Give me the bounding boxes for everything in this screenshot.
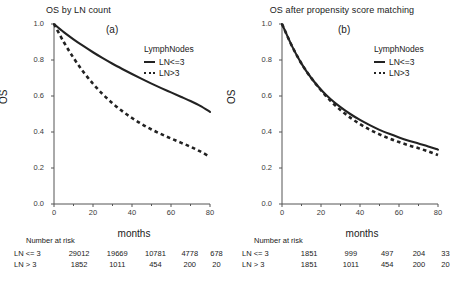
panel-a-legend-item-ln-le-3: LN<=3 (144, 57, 194, 67)
x-tick-label: 0 (272, 208, 292, 217)
y-tick-label: 0.0 (22, 199, 44, 208)
panel-b-legend-label-ln-gt-3: LN>3 (389, 68, 410, 78)
panel-b-risk-title: Number at risk (254, 236, 303, 245)
panel-b-legend: LymphNodes LN<=3 LN>3 (374, 44, 424, 78)
risk-row: LN > 31852101145420020 (0, 259, 228, 270)
dashed-line-swatch-icon (144, 69, 155, 77)
panel-a-risk-title: Number at risk (26, 236, 75, 245)
risk-value: 200 (175, 259, 206, 270)
panel-a-legend: LymphNodes LN<=3 LN>3 (144, 44, 194, 78)
risk-row-label: LN > 3 (228, 259, 288, 270)
x-tick-label: 60 (389, 208, 409, 217)
panel-b-legend-item-ln-le-3: LN<=3 (374, 57, 424, 67)
panel-b-risk-table: LN <= 3185199949720433LN > 3185110114542… (228, 248, 456, 270)
panel-b-legend-label-ln-le-3: LN<=3 (389, 57, 415, 67)
risk-row: LN <= 3185199949720433 (228, 248, 456, 259)
panel-a-legend-label-ln-le-3: LN<=3 (159, 57, 185, 67)
risk-value: 19669 (98, 248, 136, 259)
panel-a-risk-table: LN <= 32901219669107814778678LN > 318521… (0, 248, 228, 270)
risk-value: 4778 (175, 248, 206, 259)
y-tick-label: 0.8 (22, 55, 44, 64)
panel-a-y-axis-label: OS (0, 90, 9, 104)
risk-value: 454 (136, 259, 174, 270)
x-tick-label: 80 (428, 208, 448, 217)
risk-value: 1011 (330, 259, 371, 270)
risk-row: LN > 31851101145420020 (228, 259, 456, 270)
y-tick-label: 0.8 (250, 55, 272, 64)
panel-b-curve-ln-le-3 (282, 24, 438, 150)
panel-b-legend-item-ln-gt-3: LN>3 (374, 68, 424, 78)
risk-value: 33 (435, 248, 456, 259)
km-figure: OS by LN count (a) OS 0.00.20.40.60.81.0… (0, 0, 456, 286)
panel-b-y-axis-label: OS (226, 90, 237, 104)
panel-a: OS by LN count (a) OS 0.00.20.40.60.81.0… (0, 0, 228, 286)
risk-value: 678 (205, 248, 228, 259)
y-tick-label: 1.0 (22, 19, 44, 28)
x-tick-label: 20 (83, 208, 103, 217)
panel-a-legend-item-ln-gt-3: LN>3 (144, 68, 194, 78)
solid-line-swatch-icon (144, 58, 155, 66)
risk-value: 1851 (288, 259, 330, 270)
risk-row-label: LN <= 3 (228, 248, 288, 259)
y-tick-label: 1.0 (250, 19, 272, 28)
risk-value: 200 (403, 259, 435, 270)
y-tick-label: 0.6 (250, 91, 272, 100)
risk-value: 454 (371, 259, 403, 270)
risk-value: 497 (371, 248, 403, 259)
risk-row-label: LN <= 3 (0, 248, 60, 259)
y-tick-label: 0.0 (250, 199, 272, 208)
panel-b-legend-title: LymphNodes (374, 44, 424, 54)
risk-value: 999 (330, 248, 371, 259)
solid-line-swatch-icon (374, 58, 385, 66)
panel-a-legend-title: LymphNodes (144, 44, 194, 54)
risk-row: LN <= 32901219669107814778678 (0, 248, 228, 259)
x-tick-label: 80 (200, 208, 220, 217)
risk-row-label: LN > 3 (0, 259, 60, 270)
x-tick-label: 20 (311, 208, 331, 217)
risk-value: 1011 (98, 259, 136, 270)
dashed-line-swatch-icon (374, 69, 385, 77)
y-tick-label: 0.6 (22, 91, 44, 100)
y-tick-label: 0.4 (250, 127, 272, 136)
risk-value: 29012 (60, 248, 98, 259)
risk-value: 204 (403, 248, 435, 259)
x-tick-label: 0 (44, 208, 64, 217)
risk-value: 10781 (136, 248, 174, 259)
risk-value: 1851 (288, 248, 330, 259)
x-tick-label: 40 (122, 208, 142, 217)
panel-a-legend-label-ln-gt-3: LN>3 (159, 68, 180, 78)
risk-value: 20 (435, 259, 456, 270)
y-tick-label: 0.4 (22, 127, 44, 136)
x-tick-label: 60 (161, 208, 181, 217)
x-tick-label: 40 (350, 208, 370, 217)
risk-value: 1852 (60, 259, 98, 270)
y-tick-label: 0.2 (22, 163, 44, 172)
panel-b: OS after propensity score matching (b) O… (228, 0, 456, 286)
y-tick-label: 0.2 (250, 163, 272, 172)
risk-value: 20 (205, 259, 228, 270)
panel-b-title: OS after propensity score matching (228, 5, 456, 15)
